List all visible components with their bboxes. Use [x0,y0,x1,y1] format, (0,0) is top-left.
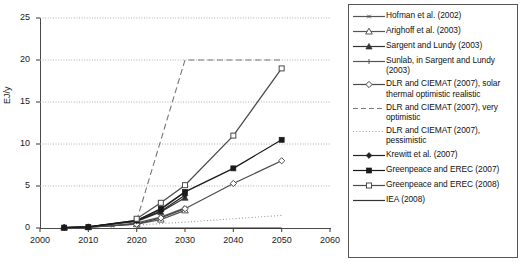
legend-key-icon [352,150,386,161]
legend-key-icon [352,11,386,22]
legend-item-label: Sargent and Lundy (2003) [386,40,482,50]
legend-item-label: Greenpeace and EREC (2008) [386,179,499,189]
chart-plot [0,0,345,272]
legend-item-label: IEA (2008) [386,194,425,204]
chart-legend: Hofman et al. (2002)Arighoff et al. (200… [348,4,518,258]
y-axis-tick-label: 0 [4,223,30,232]
x-axis-tick-label: 2010 [68,236,108,245]
legend-key-icon [352,41,386,52]
legend-key-icon [352,103,386,114]
chart-series [134,66,284,221]
legend-item: Hofman et al. (2002) [349,10,517,22]
x-axis-tick-label: 2040 [213,236,253,245]
legend-item: Greenpeace and EREC (2008) [349,179,517,191]
legend-item: Sargent and Lundy (2003) [349,40,517,52]
legend-item-label: Sunlab, in Sargent and Lundy (2003) [386,55,513,75]
legend-item: IEA (2008) [349,194,517,206]
legend-item: Sunlab, in Sargent and Lundy (2003) [349,55,517,75]
legend-key-icon [352,56,386,67]
legend-item: DLR and CIEMAT (2007), very optimistic [349,102,517,122]
legend-key-icon [352,165,386,176]
legend-item-label: Arighoff et al. (2003) [386,25,461,35]
legend-key-icon [352,195,386,206]
x-axis-tick-label: 2050 [262,236,302,245]
y-axis-tick-label: 25 [4,13,30,22]
x-axis-tick-label: 2000 [20,236,60,245]
legend-key-icon [352,79,386,90]
y-axis-tick-label: 15 [4,97,30,106]
chart-container: EJ/y 05101520252000201020202030204020502… [0,0,345,272]
legend-item: Krewitt et al. (2007) [349,149,517,161]
legend-item: Greenpeace and EREC (2007) [349,164,517,176]
y-axis-tick-label: 5 [4,181,30,190]
legend-key-icon [352,126,386,137]
chart-series [62,206,188,229]
x-axis-tick-label: 2060 [310,236,350,245]
legend-key-icon [352,180,386,191]
legend-item-label: DLR and CIEMAT (2007), pessimistic [386,125,513,145]
y-axis-tick-label: 20 [4,55,30,64]
legend-item-label: DLR and CIEMAT (2007), solar thermal opt… [386,78,513,98]
x-axis-tick-label: 2020 [117,236,157,245]
legend-item: DLR and CIEMAT (2007), pessimistic [349,125,517,145]
legend-item-label: Greenpeace and EREC (2007) [386,164,499,174]
x-axis-tick-label: 2030 [165,236,205,245]
y-axis-tick-label: 10 [4,139,30,148]
legend-item-label: DLR and CIEMAT (2007), very optimistic [386,102,513,122]
legend-item: DLR and CIEMAT (2007), solar thermal opt… [349,78,517,98]
legend-item-label: Krewitt et al. (2007) [386,149,458,159]
chart-series [62,137,284,230]
legend-key-icon [352,26,386,37]
legend-item: Arighoff et al. (2003) [349,25,517,37]
legend-item-label: Hofman et al. (2002) [386,10,461,20]
